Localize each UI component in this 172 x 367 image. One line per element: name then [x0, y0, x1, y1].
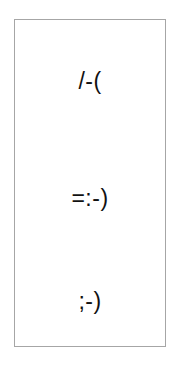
emoticon-wink: ;-) — [15, 288, 165, 314]
emoticon-smile: =:-) — [15, 185, 165, 211]
emoticon-panel: /-( =:-) ;-) — [14, 19, 166, 347]
emoticon-sad: /-( — [15, 68, 165, 94]
